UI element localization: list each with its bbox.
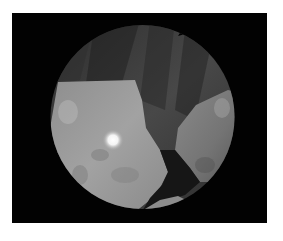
- endoscopic-view: [0, 0, 283, 241]
- edge-notch: [170, 20, 250, 36]
- scope-circle: [40, 20, 250, 220]
- specular-highlight: [102, 129, 124, 151]
